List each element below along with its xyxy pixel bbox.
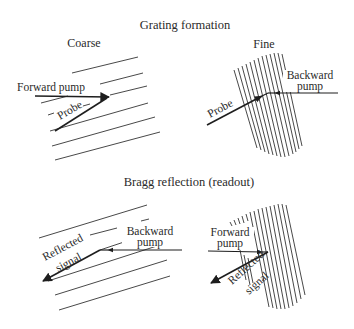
forward-pump-label-readout-2: pump: [217, 237, 243, 250]
backward-pump-label-fine-2: pump: [297, 80, 323, 93]
section-title-formation: Grating formation: [140, 18, 231, 32]
grating-diagram: Grating formation Coarse Fine Bragg refl…: [0, 0, 354, 329]
coarse-label: Coarse: [67, 36, 100, 50]
forward-pump-label: Forward pump: [17, 81, 85, 94]
section-title-readout: Bragg reflection (readout): [124, 175, 255, 189]
probe-label-fine: Probe: [205, 97, 234, 120]
fine-readout-grating-lines: [230, 204, 305, 309]
coarse-forward-pump-beam: [35, 96, 109, 97]
fine-label: Fine: [253, 37, 274, 51]
coarse-readout-grating-lines: [39, 205, 170, 310]
backward-pump-label-readout-2: pump: [137, 236, 163, 249]
probe-label-coarse: Probe: [55, 98, 84, 122]
